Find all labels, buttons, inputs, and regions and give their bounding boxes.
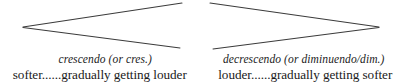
crescendo-description-label: softer......gradually getting louder	[0, 66, 196, 84]
term-labels-row: crescendo (or cres.) decrescendo (or dim…	[0, 52, 401, 67]
hairpin-symbols-group	[0, 0, 401, 52]
crescendo-lower-stroke	[23, 28, 180, 49]
decrescendo-term-label: decrescendo (or diminuendo/dim.)	[203, 52, 401, 67]
crescendo-hairpin-icon	[23, 3, 182, 48]
crescendo-term-label: crescendo (or cres.)	[0, 52, 203, 67]
dynamics-figure: crescendo (or cres.) decrescendo (or dim…	[0, 0, 401, 84]
decrescendo-lower-stroke	[213, 28, 379, 50]
decrescendo-hairpin-icon	[210, 3, 379, 49]
decrescendo-upper-stroke	[210, 3, 379, 27]
decrescendo-description-label: louder......gradually getting softer	[196, 66, 401, 84]
description-labels-row: softer......gradually getting louder lou…	[0, 66, 401, 84]
crescendo-upper-stroke	[23, 3, 182, 27]
